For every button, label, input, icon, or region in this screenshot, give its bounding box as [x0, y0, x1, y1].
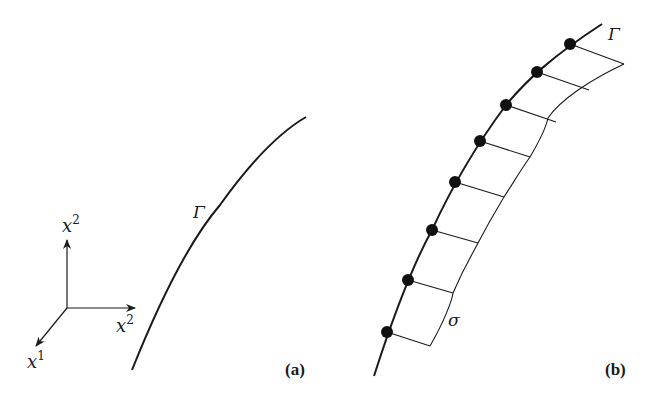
- axis-x1: [36, 308, 67, 346]
- node: [500, 99, 512, 111]
- panel-b: Γ σ (b): [374, 24, 626, 379]
- grid-nodes: [381, 38, 576, 338]
- axis-label-x2-vertical: x2: [62, 213, 80, 236]
- figure: x2 x2 x1 Γ (a) Γ σ: [0, 0, 652, 397]
- node: [402, 274, 414, 286]
- curve-gamma-b: [374, 24, 602, 376]
- node: [426, 224, 438, 236]
- axis-label-x1: x1: [27, 349, 45, 372]
- node: [381, 326, 393, 338]
- strip-label-sigma: σ: [448, 310, 460, 330]
- node: [474, 135, 486, 147]
- node: [449, 176, 461, 188]
- panel-label-a: (a): [285, 360, 305, 379]
- panel-a: x2 x2 x1 Γ (a): [27, 117, 306, 379]
- node: [564, 38, 576, 50]
- curve-label-gamma: Γ: [192, 202, 206, 222]
- panel-label-b: (b): [605, 360, 626, 379]
- node: [531, 66, 543, 78]
- axis-label-x2-horizontal: x2: [116, 313, 134, 336]
- strip-outer-boundary: [430, 64, 624, 346]
- curve-label-gamma-b: Γ: [607, 24, 621, 44]
- curve-gamma: [132, 117, 306, 370]
